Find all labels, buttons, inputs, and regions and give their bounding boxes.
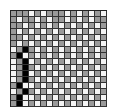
weave-draft-grid: [10, 10, 107, 107]
grid-cell: [101, 101, 107, 107]
